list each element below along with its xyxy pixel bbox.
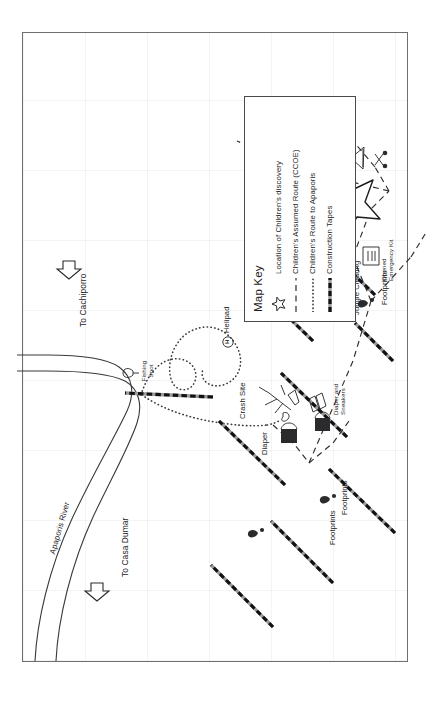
label-footprints-mid: Footprints [341, 480, 350, 515]
diaper-and-sneakers-icon [309, 393, 330, 431]
map-key-label-route-apaporis: Children's Route to Apaporis [308, 173, 317, 274]
map-key-item-assumed-route: Children's Assumed Route (CCOE) [287, 106, 304, 312]
label-diaper: Diaper [261, 432, 270, 455]
map-key-item-construction-tapes: Construction Tapes [321, 106, 338, 312]
apaporis-river [17, 355, 140, 661]
construction-tape [355, 323, 393, 361]
shelter-and-scissors-icon [351, 147, 387, 169]
rotated-map-canvas: Search Area & Evidence of Children's Sur… [0, 0, 428, 714]
opened-emergency-kit-icon [363, 247, 379, 265]
label-opened-emergency-kit: Opened Emergency Kit [381, 239, 395, 281]
construction-tape [211, 565, 273, 627]
dashed-line-icon [289, 274, 303, 312]
map-key-title: Map Key [252, 106, 264, 312]
construction-tape [271, 521, 333, 583]
hatched-tape-line-icon [323, 274, 337, 312]
construction-tape [219, 421, 285, 485]
crash-site-wreck-icon [259, 385, 299, 421]
map-page: Search Area & Evidence of Children's Sur… [0, 0, 428, 714]
map-key-panel: Map Key Location of Children's discovery… [244, 96, 356, 322]
map-key-label-construction-tapes: Construction Tapes [325, 206, 334, 274]
label-to-casa-dumar: To Casa Dumar [121, 518, 130, 577]
label-to-cachiporro: To Cachiporro [79, 274, 88, 327]
star-outline-icon [272, 274, 286, 312]
label-footprints-north: Footprints [329, 510, 338, 545]
label-diaper-and-sneakers: Diaper and Sneakers [333, 384, 347, 415]
helipad-symbol-label: H [224, 339, 231, 344]
label-helipad: Helipad [223, 307, 232, 333]
footprints-icon-mid [248, 528, 264, 538]
diaper-icon [281, 423, 297, 443]
construction-tape [329, 469, 395, 533]
map-key-item-route-apaporis: Children's Route to Apaporis [304, 106, 321, 312]
map-key-label-discovery: Location of Children's discovery [274, 161, 283, 274]
map-key-label-assumed-route: Children's Assumed Route (CCOE) [291, 149, 300, 274]
dotted-line-icon [306, 274, 320, 312]
footprints-icon-north [320, 494, 336, 504]
label-fishing-spot: Fishing Spot [141, 349, 155, 393]
map-key-item-discovery: Location of Children's discovery [270, 106, 287, 312]
label-crash-site: Crash Site [239, 383, 248, 419]
arrow-to-casa-dumar [85, 583, 109, 601]
route-to-apaporis-dotted [141, 327, 281, 426]
